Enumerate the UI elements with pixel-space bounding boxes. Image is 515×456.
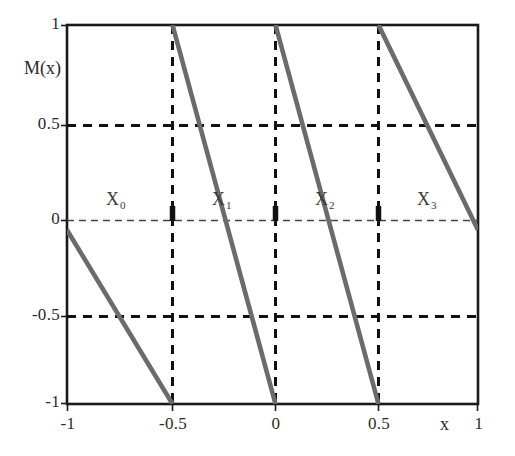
sawtooth-curve <box>67 25 478 404</box>
chart-canvas <box>0 0 515 456</box>
region-label-x3-sub: 3 <box>431 199 437 211</box>
y-axis-title: M(x) <box>24 58 61 79</box>
region-label-x0-sub: 0 <box>120 199 126 211</box>
region-label-x1: X1 <box>212 189 231 210</box>
region-label-x3-base: X <box>417 189 430 209</box>
y-tick-label-0: 0 <box>28 209 60 229</box>
region-label-x0-base: X <box>106 189 119 209</box>
chart-figure: 1 0.5 0 -0.5 -1 M(x) -1 -0.5 0 0.5 1 x X… <box>0 0 515 456</box>
horizontal-gridlines <box>67 126 478 317</box>
region-label-x2-sub: 2 <box>329 199 335 211</box>
region-label-x1-sub: 1 <box>226 199 232 211</box>
interval-markers <box>173 206 379 221</box>
region-label-x3: X3 <box>417 189 436 210</box>
curve-segment-1 <box>173 25 276 404</box>
x-tick-label--0.5: -0.5 <box>144 414 202 434</box>
x-axis-title: x <box>440 414 449 435</box>
region-label-x2-base: X <box>315 189 328 209</box>
region-label-x1-base: X <box>212 189 225 209</box>
y-tick-label--1: -1 <box>20 392 60 412</box>
x-tick-label-1: 1 <box>458 414 500 434</box>
x-tick-label-0.5: 0.5 <box>350 414 408 434</box>
curve-segment-0 <box>67 230 173 404</box>
y-tick-label-1: 1 <box>28 14 60 34</box>
y-tick-label-0.5: 0.5 <box>14 114 60 134</box>
plot-frame <box>67 25 478 404</box>
x-tick-label--1: -1 <box>47 414 89 434</box>
region-label-x0: X0 <box>106 189 125 210</box>
x-tick-label-0: 0 <box>255 414 297 434</box>
curve-segment-2 <box>276 25 379 404</box>
region-label-x2: X2 <box>315 189 334 210</box>
y-tick-label--0.5: -0.5 <box>6 305 60 325</box>
